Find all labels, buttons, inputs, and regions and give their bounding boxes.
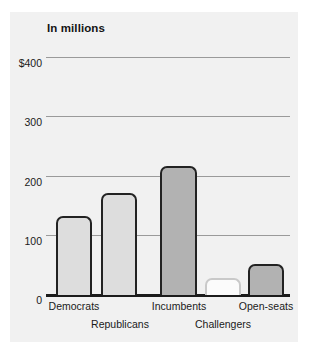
y-tick-label-0: 0 — [2, 294, 42, 306]
bar-open-seats[interactable] — [248, 264, 284, 295]
x-label-challengers: Challengers — [188, 318, 258, 330]
x-label-open-seats: Open-seats — [232, 300, 300, 312]
bar-challengers[interactable] — [205, 278, 241, 295]
x-label-incumbents: Incumbents — [145, 300, 213, 312]
bar-democrats[interactable] — [56, 216, 92, 295]
bar-chart: In millions $400 300 200 100 0 Democrats — [0, 0, 310, 354]
x-label-democrats: Democrats — [40, 300, 108, 312]
x-label-republicans: Republicans — [85, 318, 155, 330]
bar-incumbents[interactable] — [160, 166, 197, 295]
bar-republicans[interactable] — [101, 193, 137, 295]
bars-layer — [0, 0, 310, 295]
